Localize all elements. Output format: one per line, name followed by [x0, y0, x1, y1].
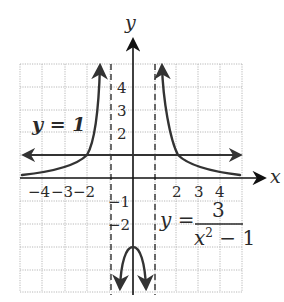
equation-denominator: x2 − 1 [194, 226, 255, 250]
y-tick-3: 3 [117, 102, 127, 120]
function-curve [22, 66, 240, 288]
rational-function-graph: y x −4 −3 −2 2 3 4 4 3 2 −1 −2 y = 1 y =… [0, 0, 284, 302]
horizontal-asymptote-label: y = 1 [31, 113, 85, 135]
x-tick-neg2: −2 [73, 183, 95, 201]
y-tick-2: 2 [117, 125, 127, 143]
y-tick-neg1: −1 [108, 193, 130, 211]
x-tick-neg3: −3 [51, 183, 73, 201]
equation-numerator: 3 [212, 198, 225, 222]
x-tick-2: 2 [172, 183, 182, 201]
x-axis-label: x [270, 165, 281, 187]
y-tick-4: 4 [117, 79, 127, 97]
curve-right-branch [162, 66, 240, 175]
equation-lhs: y = [159, 208, 194, 232]
equation-label: y = 3 x2 − 1 [159, 198, 255, 250]
x-tick-3: 3 [194, 183, 204, 201]
x-tick-neg4: −4 [28, 183, 50, 201]
y-tick-neg2: −2 [108, 216, 130, 234]
y-axis-label: y [124, 11, 136, 33]
